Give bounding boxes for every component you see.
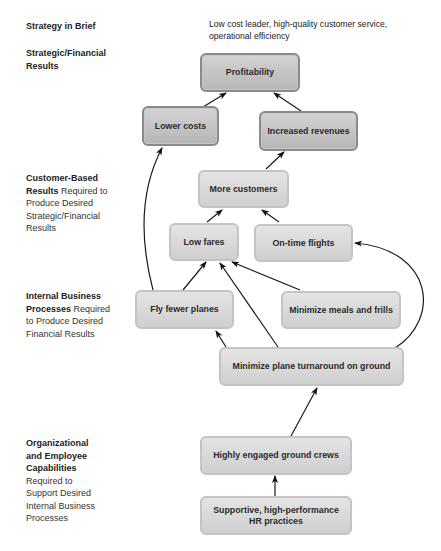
node-increased-revenues: Increased revenues (259, 111, 358, 151)
node-engaged-crews: Highly engaged ground crews (200, 436, 352, 475)
arrow-flyfewer-to-lowercosts (144, 148, 162, 290)
arrow-crews-to-turnaround (291, 388, 317, 436)
arrow-ontime-to-customers (262, 210, 279, 222)
node-low-fares: Low fares (169, 223, 239, 261)
arrow-lower-costs-to-profitability (203, 93, 226, 107)
arrow-flyfewer-to-lowfares (183, 262, 206, 290)
arrow-revenues-to-profitability (274, 93, 301, 111)
node-more-customers: More customers (198, 170, 289, 208)
node-hr-practices: Supportive, high-performance HR practice… (200, 496, 352, 535)
node-minimize-turnaround: Minimize plane turnaround on ground (219, 347, 404, 386)
arrow-turnaround-to-flyfewer (216, 331, 226, 347)
node-minimize-meals: Minimize meals and frills (281, 291, 401, 329)
arrow-customers-to-revenues (266, 152, 284, 169)
node-lower-costs: Lower costs (142, 106, 219, 146)
node-profitability: Profitability (200, 53, 300, 92)
arrow-lowfares-to-customers (207, 210, 222, 222)
node-fly-fewer-planes: Fly fewer planes (135, 290, 234, 329)
node-on-time-flights: On-time flights (254, 224, 353, 262)
arrow-meals-to-lowfares (232, 262, 300, 290)
